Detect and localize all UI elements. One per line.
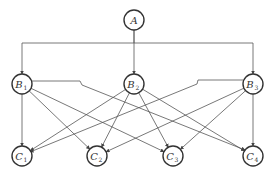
edge-B1-C3: [31, 88, 164, 151]
node-subscript: 2: [99, 156, 103, 163]
node-subscript: 2: [136, 84, 140, 91]
edge-B2-C2: [102, 93, 130, 147]
edge-A-B3: [134, 43, 253, 74]
node-label: B: [14, 79, 22, 90]
edge-B3-C3: [180, 91, 245, 150]
node-label: C: [15, 151, 23, 162]
edge-A-B1: [22, 43, 134, 74]
node-C2: C2: [87, 146, 107, 166]
edge-B2-C1: [30, 89, 125, 150]
node-B1: B1: [12, 74, 32, 94]
node-label: C: [90, 151, 98, 162]
node-C4: C4: [243, 146, 263, 166]
node-A: A: [124, 10, 144, 30]
node-label: A: [129, 15, 137, 26]
node-label: B: [245, 79, 253, 90]
node-B3: B3: [243, 74, 263, 94]
hierarchy-diagram: AB1B2B3C1C2C3C4: [0, 0, 273, 179]
node-C1: C1: [12, 146, 32, 166]
node-subscript: 1: [24, 84, 28, 91]
node-B2: B2: [124, 74, 144, 94]
node-subscript: 4: [255, 156, 259, 163]
node-subscript: 3: [255, 84, 259, 91]
node-subscript: 1: [24, 156, 28, 163]
node-label: C: [166, 151, 174, 162]
node-label: C: [246, 151, 254, 162]
node-label: B: [126, 79, 134, 90]
edge-B2-C4: [143, 89, 245, 151]
nodes-layer: AB1B2B3C1C2C3C4: [12, 10, 263, 166]
node-subscript: 3: [175, 156, 179, 163]
node-C3: C3: [163, 146, 183, 166]
edge-B2-C3: [139, 93, 168, 147]
